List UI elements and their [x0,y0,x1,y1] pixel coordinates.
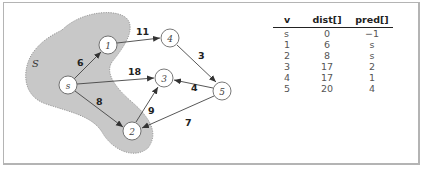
header-dist: dist[] [303,14,351,26]
cell-pred: s [351,50,393,61]
node-label-1: 1 [105,41,111,51]
cell-dist: 17 [303,72,351,83]
distance-table: v dist[] pred[] s 0 −1 1 6 s 2 8 s 3 17 … [273,14,393,94]
header-v: v [273,14,303,26]
cell-pred: 4 [351,83,393,94]
table-row: 1 6 s [273,39,393,50]
weight-s-3: 18 [128,66,142,77]
cell-pred: 1 [351,72,393,83]
header-pred: pred[] [351,14,393,26]
weight-s-1: 6 [77,57,84,68]
edge-2-3 [136,87,158,122]
node-label-2: 2 [128,127,135,137]
weight-5-3: 4 [191,82,198,93]
table-row: 4 17 1 [273,72,393,83]
cell-pred: s [351,39,393,50]
set-s-label: S [32,58,39,69]
node-label-s: s [66,81,71,91]
weight-5-2: 7 [185,117,192,128]
node-label-3: 3 [161,74,167,84]
weight-1-4: 11 [136,26,149,37]
cell-dist: 8 [303,50,351,61]
cell-v: 2 [273,50,303,61]
cell-dist: 20 [303,83,351,94]
table-header: v dist[] pred[] [273,14,393,28]
node-label-4: 4 [166,34,173,44]
node-label-5: 5 [219,87,225,97]
table-row: 2 8 s [273,50,393,61]
weight-s-2: 8 [96,96,103,107]
cell-pred: 2 [351,61,393,72]
cell-dist: 6 [303,39,351,50]
weight-4-5: 3 [198,50,205,61]
weight-2-3: 9 [148,105,155,116]
cell-v: 1 [273,39,303,50]
cell-dist: 0 [303,28,351,39]
table-row: 5 20 4 [273,83,393,94]
cell-v: 3 [273,61,303,72]
cell-v: 4 [273,72,303,83]
cell-v: 5 [273,83,303,94]
edge-4-5 [177,45,216,82]
graph-diagram: S 6 18 8 11 3 4 9 7 s 1 2 3 4 5 [0,0,270,169]
cell-dist: 17 [303,61,351,72]
table-row: s 0 −1 [273,28,393,39]
table-row: 3 17 2 [273,61,393,72]
cell-pred: −1 [351,28,393,39]
cell-v: s [273,28,303,39]
